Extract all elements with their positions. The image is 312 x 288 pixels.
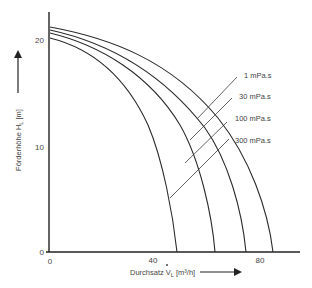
leader-100-mpas: [185, 122, 227, 163]
x-tick-80: 80: [256, 256, 265, 265]
x-tick-40: 40: [149, 256, 158, 265]
label-30-mpas: 30 mPa.s: [239, 92, 271, 101]
x-tick-0: 0: [48, 257, 53, 266]
x-title-dot-icon: [166, 264, 168, 266]
curve-30-mpas: [50, 30, 246, 252]
y-tick-20: 20: [35, 36, 44, 45]
y-axis-title: Förderhöhe HL [m]: [14, 109, 24, 171]
y-tick-0: 0: [40, 248, 45, 257]
curve-100-mpas: [50, 33, 215, 252]
leader-300-mpas: [170, 139, 229, 198]
curve-300-mpas: [50, 38, 177, 252]
label-1-mpas: 1 mPa.s: [244, 71, 272, 80]
x-axis-title: Durchsatz VL [m³/h]: [130, 268, 195, 278]
pump-performance-chart: 20 10 0 0 40 80 Förderhöhe HL [m] Durchs…: [0, 0, 312, 288]
y-tick-10: 10: [35, 143, 44, 152]
label-300-mpas: 300 mPa.s: [235, 136, 271, 145]
label-100-mpas: 100 mPa.s: [235, 114, 271, 123]
